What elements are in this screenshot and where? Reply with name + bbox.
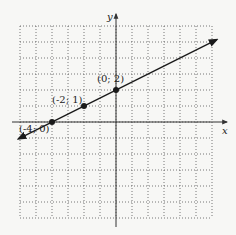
point-label: (-2; 1) <box>52 94 83 105</box>
point-label: (0; 2) <box>97 73 124 84</box>
x-axis-label: x <box>222 125 228 136</box>
coordinate-plane: x y (0; 2)(-2; 1)(-4; 0) <box>0 0 236 235</box>
data-point <box>49 119 55 125</box>
y-axis-label: y <box>106 11 113 22</box>
data-points: (0; 2)(-2; 1)(-4; 0) <box>19 73 124 134</box>
data-point <box>113 87 119 93</box>
point-label: (-4; 0) <box>19 123 50 134</box>
